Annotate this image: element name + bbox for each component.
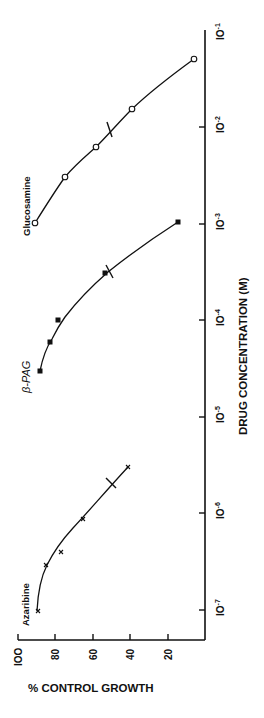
series-label-glucosamine: Glucosamine <box>21 176 32 236</box>
x-tick-labels: IO-7 IO-6 IO-5 IO-4 IO-3 IO-2 IO-1 <box>214 23 226 616</box>
azaribine-curve <box>37 467 128 611</box>
axes <box>18 30 205 640</box>
y-tick-label: IOO <box>13 647 24 666</box>
x-axis-title: DRUG CONCENTRATION (M) <box>237 277 249 435</box>
x-tick-label: IO-4 <box>214 309 226 326</box>
glucosamine-curve <box>35 59 194 223</box>
open-circle-marker-icon <box>32 56 197 226</box>
y-axis-title: % CONTROL GROWTH <box>28 682 154 694</box>
y-tick-label: 20 <box>163 648 174 660</box>
filled-square-marker-icon <box>38 220 181 374</box>
series-beta-pag: β-PAG <box>20 220 181 395</box>
dose-response-chart: IO-7 IO-6 IO-5 IO-4 IO-3 IO-2 IO-1 IOO 8… <box>0 0 264 718</box>
y-tick-labels: IOO 80 60 40 20 <box>13 647 174 666</box>
series-label-beta-pag: β-PAG <box>20 360 32 394</box>
series-glucosamine: Glucosamine <box>21 56 197 236</box>
y-tick-label: 60 <box>88 648 99 660</box>
x-tick-label: IO-6 <box>214 502 226 519</box>
x-tick-label: IO-1 <box>214 23 226 40</box>
x-tick-label: IO-2 <box>214 116 226 133</box>
y-ticks <box>18 634 168 640</box>
x-tick-label: IO-7 <box>214 599 226 616</box>
series-label-azaribine: Azaribine <box>20 583 31 626</box>
beta-pag-curve <box>40 222 178 371</box>
series-azaribine: Azaribine <box>20 465 130 626</box>
y-tick-label: 40 <box>125 648 136 660</box>
y-tick-label: 80 <box>50 648 61 660</box>
x-tick-label: IO-3 <box>214 213 226 230</box>
x-ticks <box>199 127 205 610</box>
x-tick-label: IO-5 <box>214 406 226 423</box>
